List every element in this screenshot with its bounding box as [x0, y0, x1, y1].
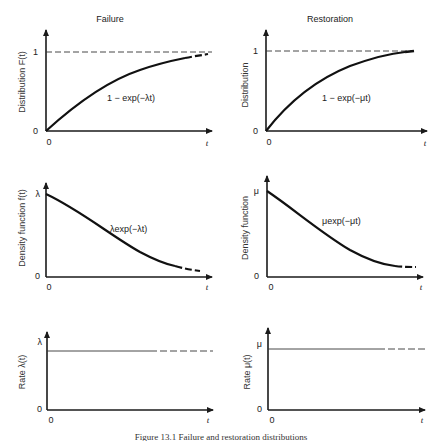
xtick-zero: 0 — [268, 282, 273, 292]
distribution-curve-tail — [185, 54, 208, 58]
figure: Failure Restoration 1 0 0 t 1 − exp(−λt)… — [0, 0, 442, 441]
curve-formula: 1 − exp(−λt) — [107, 93, 155, 103]
ytick-zero: 0 — [33, 126, 38, 136]
panel-restoration-density: μ 0 0 t μexp(−μt) Density function — [240, 176, 423, 292]
ytick-zero: 0 — [37, 404, 42, 414]
xtick-zero: 0 — [269, 415, 274, 425]
x-axis-label: t — [420, 282, 423, 292]
panel-failure-rate: λ 0 0 t Rate λ(t) — [17, 332, 213, 425]
x-axis-label: t — [206, 282, 209, 292]
column-title-failure: Failure — [96, 14, 124, 24]
curve-formula: μexp(−μt) — [322, 216, 361, 226]
curve-formula: 1 − exp(−μt) — [322, 93, 371, 103]
ytick-zero: 0 — [257, 404, 262, 414]
xtick-zero: 0 — [266, 137, 271, 147]
figure-caption: Figure 13.1 Failure and restoration dist… — [135, 432, 308, 441]
x-axis-label: t — [206, 138, 209, 148]
y-axis-label: Density function — [240, 196, 250, 260]
x-axis-label: t — [424, 138, 427, 148]
ytick-top: λ — [38, 337, 43, 347]
y-axis-label: Distribution — [240, 62, 250, 107]
y-axis-label: Distribution F(t) — [17, 51, 27, 113]
ytick-zero: 0 — [254, 271, 259, 281]
ytick-top: 1 — [33, 47, 38, 57]
distribution-curve-tail — [405, 51, 414, 52]
density-curve-tail — [175, 266, 200, 271]
ytick-top: μ — [257, 339, 262, 349]
y-axis-label: Rate λ(t) — [17, 355, 27, 390]
xtick-zero: 0 — [48, 415, 53, 425]
ytick-zero: 0 — [35, 271, 40, 281]
y-axis-label: Rate μ(t) — [242, 354, 252, 389]
y-axis-label: Density function f(t) — [17, 189, 27, 267]
panel-failure-density: λ 0 0 t λexp(−λt) Density function f(t) — [17, 183, 212, 292]
density-curve — [267, 191, 395, 266]
panel-failure-distribution: 1 0 0 t 1 − exp(−λt) Distribution F(t) — [17, 30, 212, 148]
panel-restoration-distribution: 1 0 0 t 1 − exp(−μt) Distribution — [240, 30, 427, 148]
panel-restoration-rate: μ 0 0 t Rate μ(t) — [242, 328, 428, 425]
ytick-zero: 0 — [253, 126, 258, 136]
xtick-zero: 0 — [46, 282, 51, 292]
distribution-curve — [266, 52, 405, 131]
x-axis-label: t — [421, 415, 424, 425]
ytick-top: 1 — [253, 46, 258, 56]
curve-formula: λexp(−λt) — [110, 224, 147, 234]
xtick-zero: 0 — [46, 137, 51, 147]
column-title-restoration: Restoration — [307, 14, 353, 24]
ytick-top: λ — [36, 189, 41, 199]
ytick-top: μ — [254, 186, 259, 196]
x-axis-label: t — [207, 415, 210, 425]
density-curve-tail — [395, 266, 416, 267]
